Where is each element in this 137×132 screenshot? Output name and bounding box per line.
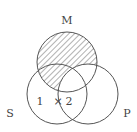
venn-diagram: M S P 1 × 2 — [0, 0, 137, 132]
label-s: S — [6, 107, 14, 120]
label-m: M — [61, 14, 72, 27]
region-mark-2: 2 — [66, 95, 73, 108]
region-mark-cross: × — [53, 95, 62, 108]
label-p: P — [123, 107, 131, 120]
region-mark-1: 1 — [37, 95, 44, 108]
